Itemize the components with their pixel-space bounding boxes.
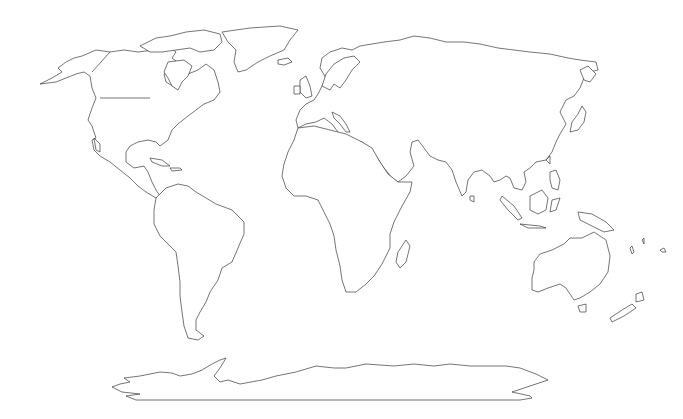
iceland [278, 58, 292, 65]
sri-lanka [470, 196, 474, 202]
sumatra [500, 196, 522, 220]
world-map [0, 0, 683, 419]
pacific-island [630, 246, 634, 254]
borneo [530, 190, 548, 214]
canadian-arctic-islands [140, 30, 222, 52]
north-america [40, 46, 220, 198]
new-zealand-south [610, 304, 636, 322]
great-britain [300, 76, 312, 98]
java [520, 224, 546, 228]
south-america [154, 184, 244, 340]
philippines [550, 170, 560, 190]
cuba [150, 158, 170, 166]
hispaniola [170, 168, 182, 171]
new-guinea [578, 212, 614, 232]
sulawesi [550, 198, 560, 212]
greenland [222, 26, 298, 72]
new-zealand-north [636, 292, 644, 302]
madagascar [396, 240, 410, 268]
antarctica [112, 358, 548, 400]
ireland [294, 86, 300, 94]
tasmania [578, 304, 586, 312]
japan [570, 106, 586, 132]
pacific-island [660, 248, 666, 252]
pacific-island [642, 238, 644, 244]
australia [532, 232, 610, 300]
